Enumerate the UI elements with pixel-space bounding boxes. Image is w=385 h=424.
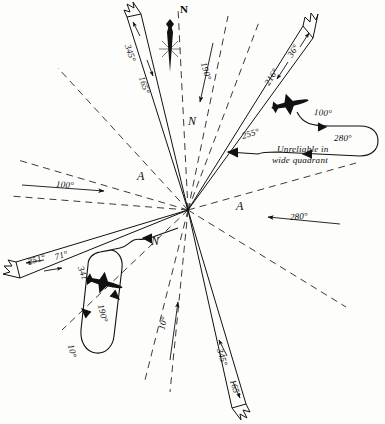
beam-sw — [3, 210, 188, 278]
track-arrow-100 — [318, 123, 326, 131]
radio-range-diagram: N A A N N 345° 165° 216° 36° 251° 71° 34… — [0, 0, 385, 424]
quadrant-boundary-lines — [10, 8, 356, 392]
compass-rose — [159, 19, 181, 72]
boundary-ne-inner — [188, 22, 259, 210]
unreliable-note-line1: Unreliable in — [277, 144, 329, 155]
track-arrow-190 — [110, 290, 119, 299]
aircraft-lower-group — [81, 228, 178, 353]
flight-path-lower — [81, 228, 178, 353]
center-course-arrows — [22, 43, 340, 360]
airplane-icon — [269, 89, 311, 118]
beam-se-ragged-end — [232, 404, 250, 420]
beam-nw — [124, 2, 188, 210]
boundary-w-lower — [10, 196, 188, 210]
track-label-10: 10° — [65, 344, 77, 359]
course-label-left-100: 100° — [56, 180, 75, 191]
beam-sw-ragged-end — [3, 260, 20, 278]
compass-north-label: N — [180, 4, 188, 16]
quadrant-letter-a-left: A — [137, 170, 145, 183]
course-10-arrow — [170, 302, 178, 360]
beam-corridors — [3, 2, 318, 420]
track-label-100: 100° — [314, 108, 333, 119]
track-arrow-10 — [82, 309, 91, 318]
boundary-s-right — [170, 210, 188, 392]
unreliable-note-line2: wide quadrant — [272, 155, 328, 166]
boundary-n-left — [178, 8, 188, 210]
boundary-e-lower — [188, 210, 346, 307]
quadrant-letter-n-upper: N — [188, 115, 196, 128]
beam-ne — [188, 13, 318, 210]
quadrant-letter-n-lower: N — [151, 235, 159, 248]
boundary-w-upper — [18, 160, 188, 210]
track-arrow-255 — [228, 148, 238, 157]
beam-nw-ragged-end — [124, 2, 141, 17]
course-label-right-280: 280° — [290, 212, 309, 223]
beam-ne-ragged-end — [303, 13, 318, 38]
boundary-n-right — [188, 16, 228, 210]
holding-pattern-track — [81, 228, 178, 353]
track-label-280: 280° — [334, 134, 352, 143]
diagram-canvas — [0, 0, 385, 424]
quadrant-letter-a-right: A — [236, 200, 244, 213]
